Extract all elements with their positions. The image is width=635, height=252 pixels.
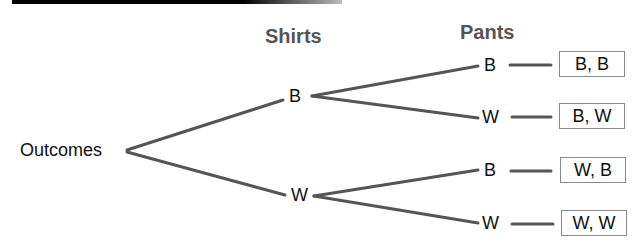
branch-b-w [312,96,478,118]
outcome-box-2: B, W [559,103,625,129]
shirt-node-w: W [291,185,308,206]
pants-node-3: B [484,160,496,181]
branch-root-w [127,152,285,195]
outcome-box-1: B, B [559,51,625,77]
branch-b-b [312,66,478,96]
pants-node-1: B [484,55,496,76]
branch-w-b [314,170,478,196]
header-shirts: Shirts [265,25,322,48]
outcome-box-3: W, B [560,157,626,183]
shirt-node-b: B [289,86,301,107]
root-label: Outcomes [20,140,102,161]
pants-node-4: W [482,213,499,234]
branch-root-b [127,100,283,150]
pants-node-2: W [482,107,499,128]
branch-w-w [314,196,478,223]
outcome-box-4: W, W [561,210,627,236]
header-pants: Pants [460,21,514,44]
